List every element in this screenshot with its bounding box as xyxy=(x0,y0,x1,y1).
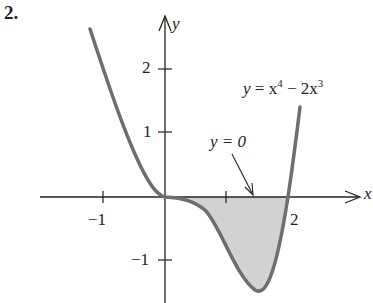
annotation-arrowhead-icon xyxy=(245,183,253,195)
line-label: y = 0 xyxy=(210,132,246,152)
x-axis-label: x xyxy=(364,184,372,204)
tick-label-ym1: −1 xyxy=(131,250,149,270)
tick-label-x2: 2 xyxy=(290,210,299,230)
curve-label-lhs: y xyxy=(243,79,251,98)
curve-label: y = x4 − 2x3 xyxy=(243,77,323,99)
annotation-arrow xyxy=(232,154,252,193)
curve-label-rhs: = x xyxy=(251,79,278,98)
curve-label-mid: − 2x xyxy=(283,79,318,98)
tick-label-y1: 1 xyxy=(143,122,152,142)
curve-label-exp2: 3 xyxy=(318,77,324,89)
y-axis-label: y xyxy=(172,14,180,34)
plot-canvas xyxy=(0,0,373,303)
tick-label-y2: 2 xyxy=(142,58,151,78)
tick-label-xm1: −1 xyxy=(88,210,106,230)
